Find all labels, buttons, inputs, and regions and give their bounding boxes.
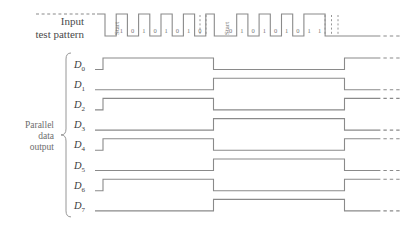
input-bit-1-3: 1 [263, 27, 266, 34]
input-bit-1-7: 1 [308, 27, 311, 34]
input-label-line1: Input [26, 16, 84, 27]
waveform-d3 [95, 119, 377, 131]
parallel-label-line2: data [6, 131, 54, 142]
input-bit-1-1: 1 [240, 27, 243, 34]
signal-label-base: D [74, 160, 82, 171]
parallel-label-line1: Parallel [6, 120, 54, 131]
waveform-d1 [95, 78, 377, 90]
signal-label-base: D [74, 59, 82, 70]
waveform-d4 [95, 139, 377, 151]
signal-label-subscript: 6 [82, 186, 86, 194]
input-bit-0-7: 0 [198, 27, 201, 34]
waveform-d7 [95, 199, 377, 211]
signal-label-subscript: 2 [82, 105, 86, 113]
input-bit-1-5: 1 [285, 27, 288, 34]
waveform-d0 [95, 58, 377, 70]
input-bit-0-2: 1 [142, 27, 145, 34]
signal-label-subscript: 7 [82, 206, 86, 214]
signal-label-d4: D4 [74, 140, 85, 153]
input-test-pattern-waveform [97, 14, 377, 36]
input-bit-0-0: 1 [120, 27, 123, 34]
signal-label-base: D [74, 79, 82, 90]
signal-label-subscript: 0 [82, 65, 86, 73]
signal-label-base: D [74, 119, 82, 130]
input-bit-1-0: 0 [229, 27, 232, 34]
signal-label-d0: D0 [74, 60, 85, 73]
input-trailing-bit: 1 [318, 27, 321, 34]
input-bit-0-3: 0 [153, 27, 156, 34]
waveform-d2 [95, 98, 377, 110]
signal-label-subscript: 1 [82, 85, 86, 93]
signal-label-d2: D2 [74, 100, 85, 113]
signal-label-base: D [74, 99, 82, 110]
signal-label-base: D [74, 180, 82, 191]
signal-label-d1: D1 [74, 80, 85, 93]
signal-label-d7: D7 [74, 201, 85, 214]
signal-label-base: D [74, 200, 82, 211]
parallel-label-line3: output [6, 142, 54, 153]
input-bit-0-6: 1 [187, 27, 190, 34]
input-bit-1-4: 0 [274, 27, 277, 34]
input-bit-1-2: 0 [252, 27, 255, 34]
input-bit-0-1: 0 [131, 27, 134, 34]
parallel-output-brace [61, 53, 71, 217]
waveform-d5 [95, 159, 377, 171]
signal-label-d6: D6 [74, 181, 85, 194]
signal-label-subscript: 5 [82, 166, 86, 174]
signal-label-d3: D3 [74, 120, 85, 133]
input-bit-1-6: 0 [296, 27, 299, 34]
input-bit-0-4: 1 [165, 27, 168, 34]
signal-label-d5: D5 [74, 161, 85, 174]
input-label-line2: test pattern [6, 29, 84, 40]
signal-label-subscript: 3 [82, 125, 86, 133]
input-bit-0-5: 0 [176, 27, 179, 34]
signal-label-base: D [74, 139, 82, 150]
signal-label-subscript: 4 [82, 145, 86, 153]
waveform-d6 [95, 179, 377, 191]
